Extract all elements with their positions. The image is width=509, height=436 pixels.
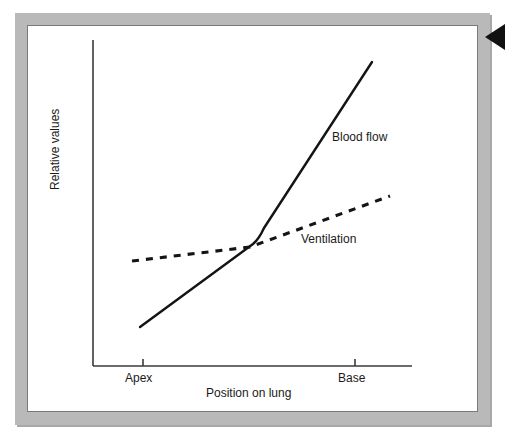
y-axis-label: Relative values — [48, 109, 62, 190]
series-line-ventilation — [132, 196, 390, 261]
x-axis-label: Position on lung — [206, 386, 291, 400]
figure-page: Relative values Position on lung Apex Ba… — [0, 0, 509, 436]
series-label-ventilation: Ventilation — [301, 232, 356, 246]
line-chart — [0, 0, 509, 436]
x-tick-label-apex: Apex — [125, 371, 152, 385]
series-line-blood-flow — [140, 62, 372, 327]
series-label-blood-flow: Blood flow — [332, 130, 387, 144]
x-tick-label-base: Base — [338, 371, 365, 385]
